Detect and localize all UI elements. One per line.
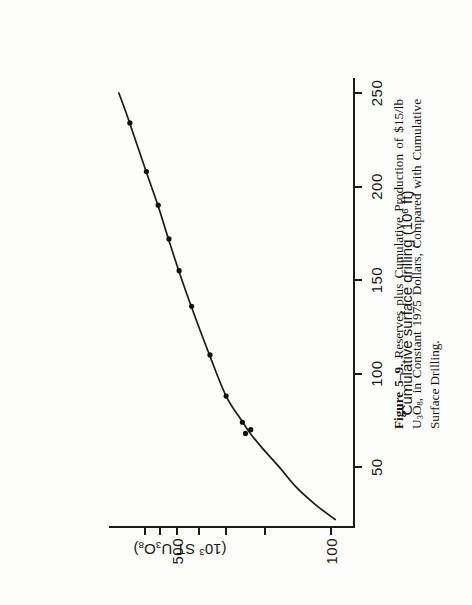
data-point <box>127 120 132 125</box>
y-axis-title-mid: ST U <box>161 541 199 558</box>
data-point <box>207 352 212 357</box>
figure-number: Figure 5–9. <box>391 364 406 429</box>
data-point <box>177 268 182 273</box>
data-point-markers <box>127 120 253 436</box>
y-axis-title-exponent: 3 <box>199 547 205 558</box>
data-point <box>156 203 161 208</box>
y-axis-title-tail: ) <box>134 541 139 558</box>
curve-path <box>119 93 335 520</box>
caption-body-1b: O <box>409 406 424 416</box>
caption-body-1c: , in <box>409 383 424 401</box>
caption-sub-2: 8 <box>414 401 424 405</box>
data-point <box>144 169 149 174</box>
figure-page: 50100150200250 100500 Cumulative surface… <box>0 0 472 605</box>
data-point <box>248 427 253 432</box>
rotated-caption-container: Figure 5–9. Reserves plus Cumulative Pro… <box>390 99 454 429</box>
data-point <box>243 431 248 436</box>
data-point <box>224 393 229 398</box>
caption-sub-1: 3 <box>414 415 424 419</box>
y-axis-title-sub-2: 8 <box>139 540 145 551</box>
data-point <box>166 236 171 241</box>
figure-caption: Figure 5–9. Reserves plus Cumulative Pro… <box>390 99 444 429</box>
rotated-figure-container: 50100150200250 100500 Cumulative surface… <box>51 32 421 572</box>
caption-body-3: Drilling. <box>427 340 442 385</box>
y-axis-title-mid-2: O <box>144 541 156 558</box>
data-point <box>240 420 245 425</box>
data-curve <box>51 32 421 572</box>
data-point <box>189 304 194 309</box>
y-axis-title: (103 ST U3O8) <box>60 540 300 558</box>
y-axis-title-sub-1: 3 <box>156 540 162 551</box>
y-axis-title-lead: (10 <box>205 541 227 558</box>
plot-area: 50100150200250 100500 Cumulative surface… <box>51 32 421 572</box>
